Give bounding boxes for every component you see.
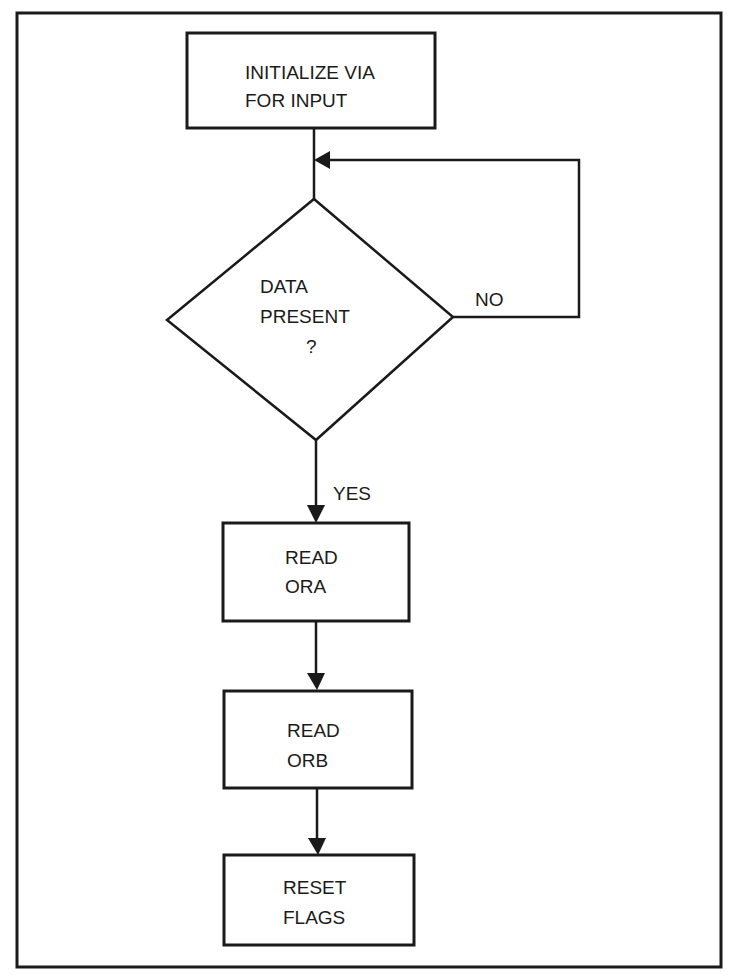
arrowhead-left-icon	[314, 151, 330, 169]
node-init-line1: INITIALIZE VIA	[245, 62, 375, 83]
edge-label-yes: YES	[333, 483, 371, 504]
node-decision-line1: DATA	[260, 276, 308, 297]
node-read-orb: READ ORB	[224, 691, 412, 788]
edge-label-no: NO	[475, 289, 504, 310]
node-reset: RESET FLAGS	[224, 855, 414, 945]
node-read-ora: READ ORA	[223, 523, 409, 621]
flowchart-canvas: INITIALIZE VIA FOR INPUT DATA PRESENT ? …	[0, 0, 732, 978]
node-read-ora-line1: READ	[285, 547, 338, 568]
arrowhead-down-icon	[307, 673, 325, 690]
node-decision-line3: ?	[306, 336, 317, 357]
node-read-orb-line1: READ	[287, 720, 340, 741]
node-read-ora-line2: ORA	[285, 576, 327, 597]
node-read-orb-line2: ORB	[287, 750, 328, 771]
node-reset-line1: RESET	[283, 877, 347, 898]
node-init-line2: FOR INPUT	[245, 90, 348, 111]
arrowhead-down-icon	[307, 505, 325, 523]
arrowhead-down-icon	[308, 838, 326, 855]
node-decision: DATA PRESENT ?	[167, 199, 453, 440]
node-init: INITIALIZE VIA FOR INPUT	[187, 33, 435, 128]
node-reset-line2: FLAGS	[283, 907, 345, 928]
node-decision-line2: PRESENT	[260, 306, 350, 327]
